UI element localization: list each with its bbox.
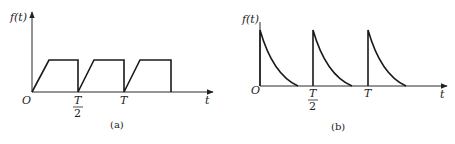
caption-a: (a) xyxy=(110,119,124,130)
figure: f(t) O T 2 T t (a) f(t) O T 2 T t (b) xyxy=(0,0,455,144)
y-label-a: f(t) xyxy=(9,11,27,24)
tick-full-a: T xyxy=(120,94,129,107)
tick-full-b: T xyxy=(364,87,373,100)
tick-half-den-b: 2 xyxy=(309,100,316,113)
origin-label-a: O xyxy=(22,94,31,107)
panel-a: f(t) O T 2 T t (a) xyxy=(9,11,213,130)
waveform-a xyxy=(32,60,171,92)
tick-half-num-b: T xyxy=(309,87,318,100)
origin-label-b: O xyxy=(251,84,260,97)
y-label-b: f(t) xyxy=(241,13,259,26)
tick-half-num-a: T xyxy=(74,94,83,107)
tick-half-den-a: 2 xyxy=(74,107,81,120)
waveform-b xyxy=(260,30,406,86)
panel-b: f(t) O T 2 T t (b) xyxy=(241,13,447,132)
x-label-b: t xyxy=(440,88,445,101)
x-label-a: t xyxy=(205,94,210,107)
caption-b: (b) xyxy=(331,121,345,132)
